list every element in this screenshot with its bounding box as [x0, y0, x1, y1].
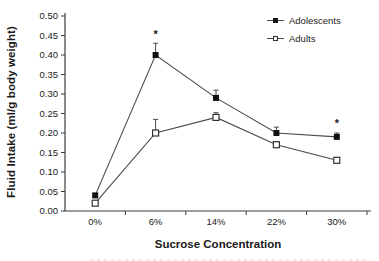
y-tick-label: 0.15	[40, 147, 59, 158]
significance-asterisk: *	[335, 117, 340, 129]
y-tick-label: 0.45	[40, 30, 59, 41]
y-tick-label: 0.35	[40, 69, 59, 80]
open-square-marker-icon	[267, 34, 284, 43]
x-axis-title: Sucrose Concentration	[155, 238, 282, 250]
legend-label-adults: Adults	[289, 33, 315, 44]
open-square-marker	[213, 114, 219, 120]
filled-square-marker-icon	[267, 16, 284, 25]
series-adults	[92, 113, 340, 206]
filled-square-glyph	[273, 18, 278, 23]
x-tick-label: 30%	[327, 216, 347, 227]
y-tick-label: 0.50	[40, 10, 59, 21]
y-tick-label: 0.10	[40, 166, 59, 177]
legend-item-adolescents: Adolescents	[267, 13, 341, 28]
x-tick-label: 22%	[267, 216, 287, 227]
y-axis-title: Fluid Intake (ml/g body weight)	[5, 26, 17, 198]
filled-square-marker	[334, 134, 340, 140]
y-tick-label: 0.30	[40, 88, 59, 99]
filled-square-marker	[213, 95, 219, 101]
legend-item-adults: Adults	[267, 31, 341, 46]
open-square-marker	[153, 130, 159, 136]
x-tick-label: 6%	[149, 216, 163, 227]
filled-square-marker	[92, 192, 98, 198]
x-tick-label: 14%	[206, 216, 226, 227]
y-tick-label: 0.20	[40, 127, 59, 138]
x-tick-label: 0%	[88, 216, 102, 227]
y-tick-label: 0.25	[40, 108, 59, 119]
legend: Adolescents Adults	[267, 13, 341, 46]
open-square-glyph	[273, 36, 278, 41]
y-tick-label: 0.00	[40, 205, 59, 216]
significance-asterisk: *	[153, 28, 158, 40]
y-tick-label: 0.40	[40, 49, 59, 60]
filled-square-marker	[153, 52, 159, 58]
figure: 0.000.050.100.150.200.250.300.350.400.45…	[0, 0, 379, 261]
y-tick-label: 0.05	[40, 186, 59, 197]
open-square-marker	[334, 157, 340, 163]
open-square-marker	[92, 200, 98, 206]
filled-square-marker	[273, 130, 279, 136]
legend-label-adolescents: Adolescents	[289, 15, 341, 26]
open-square-marker	[273, 142, 279, 148]
